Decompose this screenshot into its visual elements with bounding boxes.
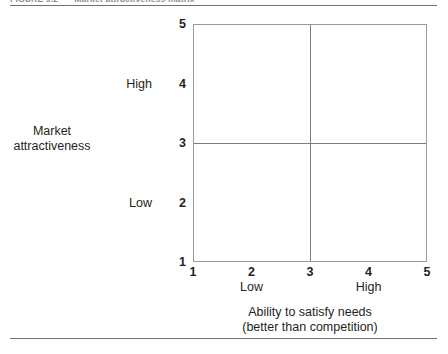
footer-divider-rule [10, 338, 437, 339]
y-axis-title-line2: attractiveness [6, 139, 98, 154]
y-category-label-low: Low [100, 196, 152, 209]
header-divider-rule [10, 5, 437, 6]
y-axis-title-line1: Market [6, 124, 98, 139]
y-tick-3: 3 [160, 137, 186, 150]
y-axis-title: Market attractiveness [6, 124, 98, 154]
y-category-label-high: High [100, 77, 152, 90]
x-axis-category-labels: Low High [193, 281, 427, 297]
figure-caption: FIGURE 9.2Market attractiveness matrix [10, 0, 440, 4]
x-axis-title-line1: Ability to satisfy needs [193, 305, 427, 320]
x-tick-5: 5 [407, 266, 447, 279]
figure-caption-title: Market attractiveness matrix [74, 0, 194, 4]
plot-area [193, 24, 427, 262]
x-tick-2: 2 [232, 266, 272, 279]
y-axis-category-labels: High Low [100, 24, 152, 262]
quadrant-divider-horizontal [194, 143, 426, 144]
x-tick-1: 1 [173, 266, 213, 279]
x-tick-4: 4 [349, 266, 389, 279]
x-axis-title-line2: (better than competition) [193, 320, 427, 335]
figure-page: FIGURE 9.2Market attractiveness matrix M… [0, 0, 448, 354]
x-category-label-high: High [339, 281, 399, 294]
y-tick-4: 4 [160, 77, 186, 90]
y-axis-tick-labels: 5 4 3 2 1 [160, 24, 186, 262]
x-tick-3: 3 [290, 266, 330, 279]
x-axis-title: Ability to satisfy needs (better than co… [193, 305, 427, 335]
x-axis-tick-labels: 1 2 3 4 5 [193, 266, 427, 282]
x-category-label-low: Low [222, 281, 282, 294]
y-tick-5: 5 [160, 18, 186, 31]
y-tick-2: 2 [160, 196, 186, 209]
figure-caption-number: FIGURE 9.2 [10, 0, 58, 4]
